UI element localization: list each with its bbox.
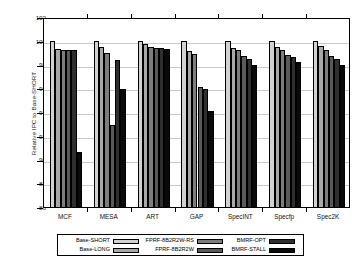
- x-axis-tick-mark: [218, 208, 219, 212]
- legend-entry: Base-LONG: [60, 246, 139, 254]
- x-axis-tick-mark: [306, 208, 307, 212]
- legend-color-swatch: [113, 248, 139, 253]
- legend-entry: BMRF-STALL: [218, 246, 295, 254]
- x-axis-tick-mark: [87, 208, 88, 212]
- legend-color-swatch: [113, 239, 139, 244]
- x-axis-tick-label: MCF: [58, 213, 72, 220]
- x-axis-tick-mark-top: [131, 14, 132, 18]
- plot-area: [43, 18, 350, 208]
- legend-label: FPRF-8B2R2W-RS: [142, 238, 194, 244]
- x-axis-tick-label: SpecINT: [228, 213, 253, 220]
- bar: [296, 62, 301, 207]
- bar: [208, 111, 213, 207]
- x-axis-tick-mark-top: [175, 14, 176, 18]
- legend-entry: BMRF-OPT: [218, 237, 295, 245]
- x-axis-tick-mark: [175, 208, 176, 212]
- bar: [77, 152, 82, 207]
- legend-label: Base-LONG: [60, 247, 110, 253]
- y-axis-tick-mark: [37, 208, 43, 209]
- x-axis-tick-label: GAP: [190, 213, 204, 220]
- bar: [120, 89, 125, 207]
- x-axis-tick-label: Specfp: [274, 213, 294, 220]
- x-axis-tick-label: MESA: [100, 213, 118, 220]
- x-axis-tick-label: ART: [146, 213, 159, 220]
- bar: [340, 65, 345, 208]
- legend-label: BMRF-OPT: [218, 238, 266, 244]
- x-axis-tick-mark: [262, 208, 263, 212]
- bar: [164, 49, 169, 207]
- x-axis-tick-mark-top: [262, 14, 263, 18]
- x-axis-tick-mark-top: [306, 14, 307, 18]
- x-axis-tick-mark: [131, 208, 132, 212]
- bar-chart: Relative IPC to Base-SHORT 8688909294969…: [0, 0, 359, 267]
- legend-label: BMRF-STALL: [218, 247, 266, 253]
- x-axis-tick-mark-top: [87, 14, 88, 18]
- legend-entry: FPRF-8B2R2W-RS: [142, 237, 223, 245]
- chart-legend: Base-SHORTBase-LONGFPRF-8B2R2W-RSFPRF-8B…: [57, 234, 304, 256]
- legend-entry: Base-SHORT: [60, 237, 139, 245]
- x-axis-tick-mark-top: [218, 14, 219, 18]
- legend-color-swatch: [269, 239, 295, 244]
- gridline: [44, 43, 349, 44]
- legend-entry: FPRF-8B2R2W: [142, 246, 223, 254]
- x-axis-tick-label: Spec2K: [317, 213, 339, 220]
- legend-color-swatch: [269, 248, 295, 253]
- bar: [252, 65, 257, 208]
- legend-label: FPRF-8B2R2W: [142, 247, 194, 253]
- legend-label: Base-SHORT: [60, 238, 110, 244]
